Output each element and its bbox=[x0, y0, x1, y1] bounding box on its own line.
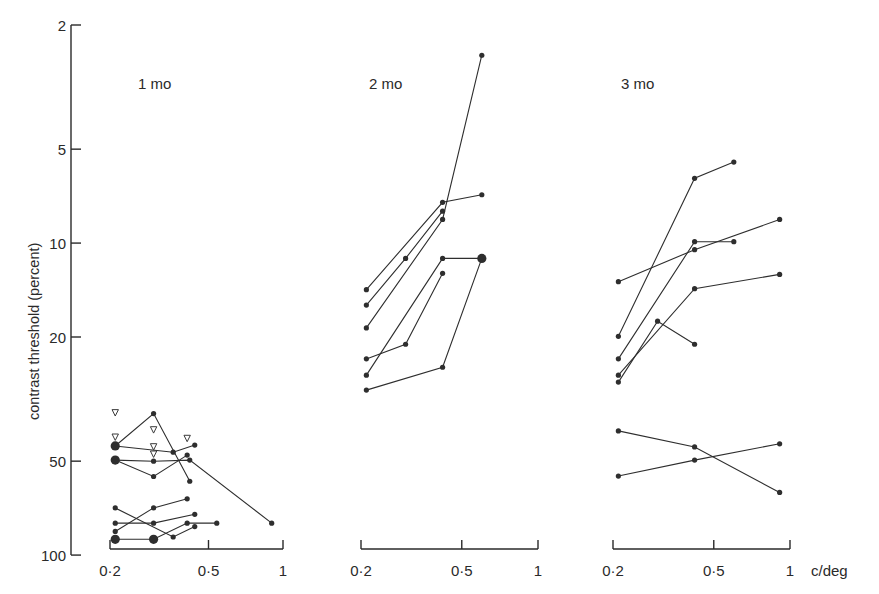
data-point bbox=[777, 441, 782, 446]
y-tick-label: 10 bbox=[49, 235, 66, 252]
data-point bbox=[440, 256, 445, 261]
y-axis: 25102050100 bbox=[41, 17, 81, 564]
series-line bbox=[366, 258, 481, 375]
data-point bbox=[171, 450, 176, 455]
series-line bbox=[366, 195, 481, 290]
data-point bbox=[192, 524, 197, 529]
data-point bbox=[692, 444, 697, 449]
x-tick-label: 0·5 bbox=[198, 562, 220, 579]
data-point bbox=[364, 373, 369, 378]
data-point bbox=[113, 505, 118, 510]
data-point bbox=[364, 325, 369, 330]
data-point bbox=[692, 286, 697, 291]
series-line bbox=[618, 431, 779, 493]
y-tick-label: 100 bbox=[41, 547, 66, 564]
open-triangle-marker bbox=[150, 427, 156, 433]
data-point bbox=[403, 256, 408, 261]
data-point bbox=[731, 159, 736, 164]
panel-2mo: 2 mo0·20·51 bbox=[350, 53, 542, 579]
data-point bbox=[616, 373, 621, 378]
data-point bbox=[113, 521, 118, 526]
data-point bbox=[479, 192, 484, 197]
open-triangle-marker bbox=[150, 451, 156, 457]
open-triangle-marker bbox=[112, 410, 118, 416]
x-tick-label: 1 bbox=[786, 562, 794, 579]
x-axis-unit-label: c/deg bbox=[811, 562, 848, 579]
series-line bbox=[366, 258, 481, 390]
data-point bbox=[692, 176, 697, 181]
data-point bbox=[616, 356, 621, 361]
data-point bbox=[403, 342, 408, 347]
data-point bbox=[616, 428, 621, 433]
series-line bbox=[115, 455, 187, 476]
y-tick-label: 50 bbox=[49, 453, 66, 470]
series-line bbox=[618, 274, 779, 375]
x-tick-label: 0·5 bbox=[703, 562, 725, 579]
y-tick-label: 5 bbox=[58, 141, 66, 158]
x-tick-label: 0·2 bbox=[350, 562, 372, 579]
data-point bbox=[479, 53, 484, 58]
data-point-large bbox=[111, 455, 120, 464]
contrast-threshold-chart: 25102050100 contrast threshold (percent)… bbox=[0, 0, 879, 594]
open-triangle-marker bbox=[150, 444, 156, 450]
x-tick-label: 0·5 bbox=[451, 562, 473, 579]
panel-3mo: 3 mo0·20·51 bbox=[602, 75, 794, 579]
data-point-large bbox=[477, 254, 486, 263]
data-point bbox=[185, 496, 190, 501]
data-point bbox=[214, 521, 219, 526]
y-tick-label: 2 bbox=[58, 17, 66, 34]
data-point bbox=[185, 452, 190, 457]
data-point bbox=[777, 272, 782, 277]
data-point bbox=[364, 356, 369, 361]
data-point bbox=[151, 474, 156, 479]
y-tick-label: 20 bbox=[49, 329, 66, 346]
panel-title: 3 mo bbox=[621, 75, 654, 92]
data-point bbox=[616, 380, 621, 385]
data-point bbox=[440, 365, 445, 370]
data-point bbox=[187, 479, 192, 484]
data-point-large bbox=[149, 535, 158, 544]
data-point bbox=[440, 200, 445, 205]
data-point bbox=[192, 512, 197, 517]
data-point bbox=[151, 505, 156, 510]
panel-title: 2 mo bbox=[369, 75, 402, 92]
data-point-large bbox=[111, 535, 120, 544]
data-point bbox=[364, 302, 369, 307]
data-point bbox=[616, 279, 621, 284]
data-point bbox=[731, 239, 736, 244]
data-point bbox=[777, 217, 782, 222]
data-point bbox=[151, 411, 156, 416]
data-point bbox=[692, 457, 697, 462]
data-point bbox=[185, 521, 190, 526]
data-point bbox=[364, 287, 369, 292]
data-point bbox=[192, 442, 197, 447]
panel-title: 1 mo bbox=[138, 75, 171, 92]
series-line bbox=[618, 220, 779, 282]
series-line bbox=[115, 523, 217, 539]
x-tick-label: 1 bbox=[534, 562, 542, 579]
data-point bbox=[364, 388, 369, 393]
data-point bbox=[151, 521, 156, 526]
data-point bbox=[440, 217, 445, 222]
data-point bbox=[269, 521, 274, 526]
data-point bbox=[692, 239, 697, 244]
data-point bbox=[692, 247, 697, 252]
data-point bbox=[655, 319, 660, 324]
series-line bbox=[618, 321, 694, 382]
open-triangle-marker bbox=[184, 435, 190, 441]
data-point bbox=[692, 342, 697, 347]
x-tick-label: 1 bbox=[279, 562, 287, 579]
data-point bbox=[616, 334, 621, 339]
data-point bbox=[777, 490, 782, 495]
panel-1mo: 1 mo0·20·51 bbox=[99, 75, 287, 579]
data-point bbox=[113, 529, 118, 534]
x-tick-label: 0·2 bbox=[602, 562, 624, 579]
data-point bbox=[440, 271, 445, 276]
data-point bbox=[171, 534, 176, 539]
data-point-large bbox=[111, 441, 120, 450]
open-triangle-marker bbox=[112, 434, 118, 440]
series-line bbox=[115, 499, 187, 532]
x-tick-label: 0·2 bbox=[99, 562, 121, 579]
y-axis-title: contrast threshold (percent) bbox=[26, 243, 42, 420]
panels: 1 mo0·20·512 mo0·20·513 mo0·20·51 bbox=[99, 53, 794, 579]
